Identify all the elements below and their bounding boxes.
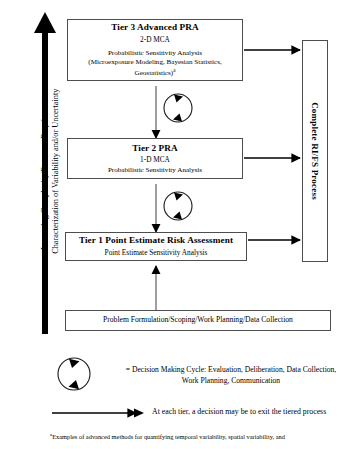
decision-cycle-icon-lower — [164, 192, 192, 220]
legend-decision-cycle-line-1: = Decision Making Cycle: Evaluation, Del… — [108, 364, 354, 375]
tier-2-detail-line-1: Probabilistic Sensitivity Analysis — [108, 166, 202, 174]
tier-2-subtitle: 1-D MCA — [140, 156, 170, 165]
axis-label-line1: Increasing Complexity/Resource Requireme… — [39, 21, 50, 321]
tier-3-subtitle: 2-D MCA — [140, 36, 170, 45]
tier-1-box[interactable]: Tier 1 Point Estimate Risk Assessment Po… — [65, 232, 247, 261]
tier-3-detail-line-1: Probabilistic Sensitivity Analysis — [108, 49, 202, 57]
tier-2-title: Tier 2 PRA — [132, 143, 178, 154]
problem-formulation-label: Problem Formulation/Scoping/Work Plannin… — [103, 316, 293, 325]
legend-exit-arrow-icon — [50, 404, 146, 422]
complete-rifs-process-box[interactable]: Complete RI/FS Process — [302, 40, 328, 262]
tier-1-title: Tier 1 Point Estimate Risk Assessment — [79, 235, 233, 246]
legend-decision-cycle-text: = Decision Making Cycle: Evaluation, Del… — [108, 364, 354, 386]
axis-label-line2: Characterization of Variability and/or U… — [50, 21, 61, 321]
tier-3-title: Tier 3 Advanced PRA — [111, 22, 199, 33]
legend-exit-arrow-text: At each tier, a decision may be to exit … — [152, 407, 352, 417]
tier-3-detail-line-2: (Microexposure Modeling, Bayesian Statis… — [88, 58, 221, 66]
tier-3-detail-line-3-text: Geostatistics) — [135, 70, 174, 78]
tier-3-footnote-marker: a — [173, 67, 175, 73]
tier-3-detail-line-3: Geostatistics)a — [135, 67, 176, 78]
tier-2-box[interactable]: Tier 2 PRA 1-D MCA Probabilistic Sensiti… — [67, 138, 243, 179]
tier-3-box[interactable]: Tier 3 Advanced PRA 2-D MCA Probabilisti… — [67, 19, 243, 81]
axis-label-group: Increasing Complexity/Resource Requireme… — [39, 21, 61, 321]
footnote: aExamples of advanced methods for quanti… — [50, 432, 350, 441]
legend-decision-cycle-icon — [52, 352, 96, 396]
footnote-text: Examples of advanced methods for quantif… — [52, 433, 285, 440]
tiered-risk-assessment-diagram: Increasing Complexity/Resource Requireme… — [0, 0, 360, 449]
problem-formulation-box[interactable]: Problem Formulation/Scoping/Work Plannin… — [65, 310, 331, 331]
decision-cycle-icon-upper — [164, 94, 192, 122]
legend-decision-cycle-line-2: Work Planning, Communication — [108, 375, 354, 386]
complete-rifs-process-label: Complete RI/FS Process — [310, 102, 320, 200]
tier-1-subtitle: Point Estimate Sensitivity Analysis — [105, 249, 208, 258]
